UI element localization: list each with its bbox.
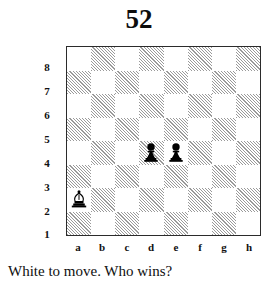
square-c3[interactable] [115,165,139,189]
square-g7[interactable] [212,71,236,95]
square-h7[interactable] [236,71,260,95]
rank-label-6: 6 [38,110,56,121]
rank-label-1: 1 [38,229,56,240]
rank-label-2: 2 [38,206,56,217]
square-h2[interactable] [236,188,260,212]
file-label-g: g [215,241,233,253]
square-a4[interactable] [67,141,91,165]
square-c4[interactable] [115,141,139,165]
square-e2[interactable] [164,188,188,212]
square-d8[interactable] [139,47,163,71]
file-label-a: a [69,241,87,253]
square-e8[interactable] [164,47,188,71]
square-c7[interactable] [115,71,139,95]
bishop-white-icon [68,189,90,211]
square-b3[interactable] [91,165,115,189]
square-f5[interactable] [188,118,212,142]
square-a5[interactable] [67,118,91,142]
square-g8[interactable] [212,47,236,71]
rank-label-4: 4 [38,158,56,169]
square-a6[interactable] [67,94,91,118]
chess-diagram: 8 7 6 5 4 3 2 1 [0,0,278,293]
square-d3[interactable] [139,165,163,189]
square-a3[interactable] [67,165,91,189]
square-c5[interactable] [115,118,139,142]
square-b5[interactable] [91,118,115,142]
file-label-d: d [142,241,160,253]
pawn-black-icon [140,142,162,164]
square-b6[interactable] [91,94,115,118]
square-h5[interactable] [236,118,260,142]
square-e6[interactable] [164,94,188,118]
square-b2[interactable] [91,188,115,212]
square-g6[interactable] [212,94,236,118]
square-d5[interactable] [139,118,163,142]
file-label-h: h [240,241,258,253]
square-f6[interactable] [188,94,212,118]
square-a8[interactable] [67,47,91,71]
pawn-black-icon [165,142,187,164]
square-b8[interactable] [91,47,115,71]
square-f1[interactable] [188,212,212,236]
square-e3[interactable] [164,165,188,189]
square-d7[interactable] [139,71,163,95]
square-e5[interactable] [164,118,188,142]
rank-label-3: 3 [38,182,56,193]
square-e1[interactable] [164,212,188,236]
square-h8[interactable] [236,47,260,71]
square-h1[interactable] [236,212,260,236]
square-g3[interactable] [212,165,236,189]
square-g4[interactable] [212,141,236,165]
rank-label-5: 5 [38,134,56,145]
file-label-b: b [93,241,111,253]
square-d1[interactable] [139,212,163,236]
square-g2[interactable] [212,188,236,212]
file-label-f: f [191,241,209,253]
file-label-e: e [167,241,185,253]
square-c2[interactable] [115,188,139,212]
square-f8[interactable] [188,47,212,71]
square-f4[interactable] [188,141,212,165]
square-f3[interactable] [188,165,212,189]
square-g5[interactable] [212,118,236,142]
square-a2[interactable] [67,188,91,212]
square-c6[interactable] [115,94,139,118]
square-b4[interactable] [91,141,115,165]
chess-board[interactable] [66,46,261,236]
square-b1[interactable] [91,212,115,236]
square-d6[interactable] [139,94,163,118]
file-label-c: c [118,241,136,253]
square-d4[interactable] [139,141,163,165]
puzzle-caption: White to move. Who wins? [8,262,272,281]
square-b7[interactable] [91,71,115,95]
rank-label-7: 7 [38,86,56,97]
square-h4[interactable] [236,141,260,165]
square-c1[interactable] [115,212,139,236]
square-f7[interactable] [188,71,212,95]
rank-label-8: 8 [38,62,56,73]
square-h6[interactable] [236,94,260,118]
square-a1[interactable] [67,212,91,236]
square-e7[interactable] [164,71,188,95]
square-e4[interactable] [164,141,188,165]
square-f2[interactable] [188,188,212,212]
square-a7[interactable] [67,71,91,95]
square-g1[interactable] [212,212,236,236]
square-d2[interactable] [139,188,163,212]
square-h3[interactable] [236,165,260,189]
square-c8[interactable] [115,47,139,71]
